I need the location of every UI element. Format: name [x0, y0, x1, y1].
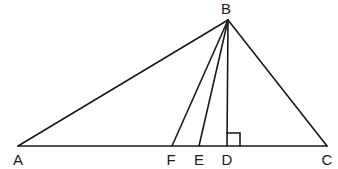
- diagram-canvas: [0, 0, 338, 169]
- triangle-diagram: B A F E D C: [0, 0, 338, 169]
- label-b: B: [221, 1, 231, 16]
- right-angle-marker: [227, 133, 240, 146]
- segment-bf: [172, 20, 228, 146]
- label-d: D: [222, 152, 233, 167]
- segment-ab: [18, 20, 228, 146]
- label-e: E: [194, 152, 204, 167]
- segment-bd: [227, 20, 228, 146]
- label-f: F: [166, 152, 175, 167]
- segment-be: [199, 20, 228, 146]
- label-a: A: [13, 152, 23, 167]
- label-c: C: [322, 152, 333, 167]
- segment-bc: [228, 20, 327, 146]
